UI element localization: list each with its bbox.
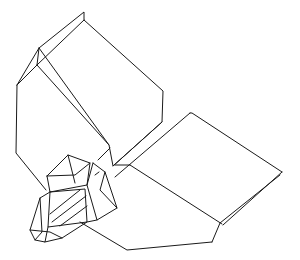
cluster-joint-marks-line: [95, 172, 99, 175]
cluster-mid-block-line: [48, 189, 87, 227]
right-crystal-rim-outer-line: [223, 172, 282, 225]
cluster-bottom-facets-line: [45, 220, 97, 242]
joint-strip-inner-line: [98, 148, 110, 160]
upper-crystal-left-side-line: [16, 85, 46, 190]
upper-crystal-outline-line: [17, 12, 163, 166]
cluster-mid-hatch-2-line: [52, 196, 86, 222]
cluster-right-inner-line: [100, 172, 117, 208]
right-crystal-bottom-line: [80, 222, 212, 250]
right-crystal-rim-line: [212, 175, 280, 242]
cluster-mid-hatch-1-line: [50, 190, 80, 214]
upper-crystal-top-edge-line: [37, 20, 84, 65]
cluster-top-inner-a-line: [68, 155, 75, 183]
crystal-diagram: [0, 0, 300, 260]
line-group: [16, 12, 282, 250]
joint-strip-upper-line: [113, 122, 162, 166]
joint-strip-lower-line: [115, 113, 190, 177]
upper-crystal-front-edge-line: [37, 65, 109, 145]
right-crystal-fold-line: [130, 165, 222, 224]
crystal-line-drawing: [0, 0, 300, 260]
cluster-top-hex-line: [47, 155, 90, 192]
right-crystal-top-edge-line: [190, 113, 282, 172]
